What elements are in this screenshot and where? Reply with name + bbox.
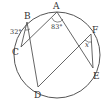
label-D: D [34,90,41,100]
geometry-diagram: A B C D E F 83° 32° x [0,0,111,103]
angle-label-A: 83° [51,23,63,31]
label-F: F [92,25,98,35]
label-C: C [12,47,19,57]
label-B: B [24,11,31,21]
label-A: A [52,1,60,11]
angle-arc-B [25,29,30,30]
segment-FE [91,34,93,68]
segment-CB [21,22,27,47]
segment-DF [38,34,91,87]
angle-label-B: 32° [10,28,22,36]
label-E: E [93,71,100,81]
angle-label-x: x [85,41,89,49]
